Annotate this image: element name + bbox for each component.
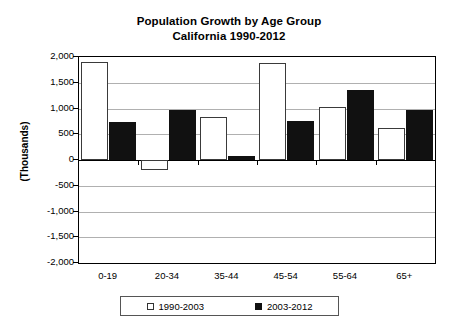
y-tick-label: 0 [14,154,74,164]
y-tick-mark [73,262,78,263]
legend-item-2003-2012: 2003-2012 [255,301,312,312]
y-tick-mark [73,108,78,109]
bar-55-64-2003-2012 [347,90,374,160]
y-tick-mark [73,211,78,212]
bar-20-34-2003-2012 [169,110,196,160]
x-tick-label-35-44: 35-44 [196,270,256,281]
x-tick-label-45-54: 45-54 [256,270,316,281]
x-tick-label-55-64: 55-64 [315,270,375,281]
x-tick-label-20-34: 20-34 [137,270,197,281]
y-tick-mark [73,159,78,160]
y-tick-label: -1,500 [14,231,74,241]
hollow-square-icon [147,303,154,310]
bar-45-54-2003-2012 [287,121,314,160]
legend-item-1990-2003: 1990-2003 [147,301,204,312]
y-tick-mark [73,82,78,83]
y-tick-label: -2,000 [14,257,74,267]
population-growth-bar-chart: Population Growth by Age Group Californi… [0,0,458,331]
bar-35-44-2003-2012 [228,156,255,160]
chart-title-line-2: California 1990-2012 [0,29,458,44]
category-tick [257,160,258,165]
x-tick-label-65+: 65+ [374,270,434,281]
bar-65+-1990-2003 [378,128,405,160]
chart-title: Population Growth by Age Group Californi… [0,14,458,44]
category-tick [198,160,199,165]
legend-label-1990-2003: 1990-2003 [159,301,204,312]
category-tick [316,160,317,165]
chart-legend: 1990-2003 2003-2012 [120,296,339,316]
filled-square-icon [255,303,262,310]
y-tick-label: -1,000 [14,206,74,216]
bar-35-44-1990-2003 [200,117,227,160]
legend-label-2003-2012: 2003-2012 [267,301,312,312]
y-tick-label: 1,500 [14,77,74,87]
category-tick [138,160,139,165]
y-tick-mark [73,56,78,57]
y-tick-mark [73,185,78,186]
y-axis-label: (Thousands) [19,97,30,207]
y-tick-mark [73,236,78,237]
plot-area [78,56,436,264]
chart-title-line-1: Population Growth by Age Group [137,15,322,27]
bar-45-54-1990-2003 [259,63,286,160]
bar-65+-2003-2012 [406,110,433,160]
x-tick-label-0-19: 0-19 [78,270,138,281]
bar-55-64-1990-2003 [319,107,346,160]
y-tick-label: 2,000 [14,51,74,61]
category-tick [376,160,377,165]
bar-0-19-2003-2012 [109,122,136,160]
y-tick-label: 500 [14,128,74,138]
bar-0-19-1990-2003 [81,62,108,160]
y-tick-mark [73,133,78,134]
y-tick-label: -500 [14,180,74,190]
y-tick-label: 1,000 [14,103,74,113]
bar-20-34-1990-2003 [141,160,168,170]
